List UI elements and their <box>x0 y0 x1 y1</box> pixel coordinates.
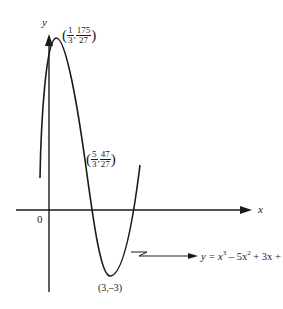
y-denominator: 27 <box>76 36 92 45</box>
x-axis-arrowhead-icon <box>240 206 252 214</box>
origin-label: 0 <box>37 214 43 225</box>
equation-label: y = x3 – 5x2 + 3x + 6 <box>201 250 283 262</box>
y-fraction: 47 27 <box>100 150 111 169</box>
equation-leader-line <box>131 252 190 256</box>
leader-arrowhead-icon <box>188 253 198 259</box>
y-fraction: 175 27 <box>76 26 92 45</box>
max-point-label: ( 1 3 , 175 27 ) <box>62 26 96 45</box>
equation-mid: – 5x <box>226 251 247 262</box>
equation-rhs: + 3x + 6 <box>251 251 283 262</box>
x-axis-label: x <box>258 204 263 215</box>
inflection-point-label: ( 5 3 , 47 27 ) <box>86 150 116 169</box>
min-point-label: (3,–3) <box>98 283 122 293</box>
graph-canvas <box>0 0 283 309</box>
close-paren: ) <box>111 152 116 167</box>
y-denominator: 27 <box>100 160 111 169</box>
equation-lhs: y = x <box>201 251 223 262</box>
close-paren: ) <box>91 28 96 43</box>
y-axis-label: y <box>42 17 47 28</box>
